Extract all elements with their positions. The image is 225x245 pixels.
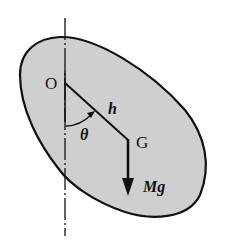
distance-label: h bbox=[108, 100, 117, 117]
pivot-label: O bbox=[45, 74, 57, 93]
physical-pendulum-diagram: O h θ G Mg bbox=[0, 0, 225, 245]
weight-label: Mg bbox=[142, 178, 165, 196]
center-of-mass-label: G bbox=[136, 133, 148, 152]
angle-label: θ bbox=[80, 126, 89, 143]
